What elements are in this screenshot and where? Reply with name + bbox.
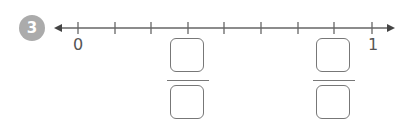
- fraction-bar: [167, 80, 209, 82]
- numerator-input-box[interactable]: [316, 38, 350, 72]
- label-zero: 0: [73, 35, 83, 54]
- fraction-answer-1: [167, 38, 209, 122]
- fraction-bar: [313, 80, 355, 82]
- denominator-input-box[interactable]: [170, 85, 204, 119]
- label-one: 1: [368, 35, 378, 54]
- right-arrow-icon: [387, 24, 395, 32]
- left-arrow-icon: [54, 24, 62, 32]
- denominator-input-box[interactable]: [316, 85, 350, 119]
- fraction-answer-2: [313, 38, 355, 122]
- numerator-input-box[interactable]: [170, 38, 204, 72]
